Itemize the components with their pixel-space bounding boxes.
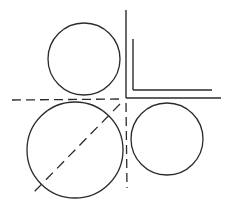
line-diagram: [0, 0, 231, 207]
